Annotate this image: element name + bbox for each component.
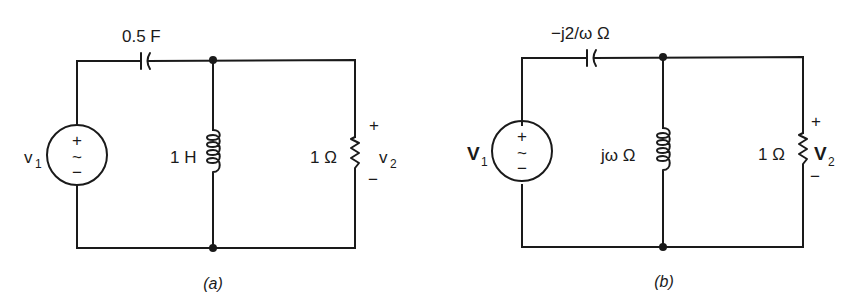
source-minus-b: − xyxy=(517,159,527,178)
junction-node-top-a xyxy=(209,56,217,64)
source-label-a: v xyxy=(24,148,33,167)
source-subscript-b: 1 xyxy=(481,155,488,169)
caption-a: (a) xyxy=(203,275,223,292)
wire-left-b xyxy=(522,58,586,125)
inductor-icon-b xyxy=(657,128,670,178)
resistor-label-b: 1 Ω xyxy=(758,145,785,164)
output-minus-a: − xyxy=(368,170,378,189)
inductor-label-b: jω Ω xyxy=(600,146,635,165)
junction-node-bottom-a xyxy=(209,244,217,252)
caption-b: (b) xyxy=(654,273,674,290)
junction-node-top-b xyxy=(659,53,667,61)
resistor-icon-a xyxy=(351,137,359,170)
source-minus-a: − xyxy=(72,163,82,182)
output-label-a: v xyxy=(379,148,388,167)
resistor-icon-b xyxy=(799,133,807,166)
wire-left-a xyxy=(77,61,140,125)
output-subscript-a: 2 xyxy=(390,157,397,171)
capacitor-label-b: −j2/ω Ω xyxy=(551,24,610,43)
circuit-figure: + ~ − v 1 0.5 F 1 H 1 Ω + − v 2 (a) xyxy=(0,0,852,304)
output-plus-a: + xyxy=(369,116,379,135)
output-minus-b: − xyxy=(810,167,820,186)
wire-cap-to-node-b xyxy=(594,57,803,133)
source-label-b: V xyxy=(467,143,480,164)
circuit-a: + ~ − v 1 0.5 F 1 H 1 Ω + − v 2 (a) xyxy=(24,27,397,292)
output-plus-b: + xyxy=(811,112,821,131)
wire-left-bottom-a xyxy=(77,170,355,248)
output-subscript-b: 2 xyxy=(828,155,835,169)
inductor-label-a: 1 H xyxy=(170,148,196,167)
output-label-b: V xyxy=(814,143,827,164)
capacitor-label-a: 0.5 F xyxy=(122,27,161,46)
inductor-icon-a xyxy=(207,130,220,181)
resistor-label-a: 1 Ω xyxy=(310,148,337,167)
junction-node-bottom-b xyxy=(659,243,667,251)
wire-cap-to-node-a xyxy=(148,60,355,137)
circuit-b: + ~ − V 1 −j2/ω Ω jω Ω 1 Ω + − V 2 (b) xyxy=(467,24,835,290)
source-subscript-a: 1 xyxy=(35,157,42,171)
